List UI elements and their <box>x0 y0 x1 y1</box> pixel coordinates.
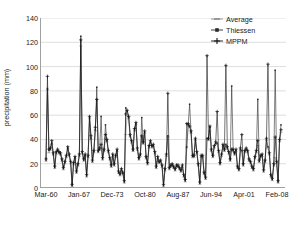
y-tick-label: 60 <box>30 111 38 120</box>
legend-label: Average <box>226 15 253 24</box>
legend-marker-icon <box>210 36 224 46</box>
x-tick-label: Jan-67 <box>68 190 90 199</box>
legend-item-mppm[interactable]: MPPM <box>210 36 288 46</box>
y-tick-label: 140 <box>26 14 38 23</box>
y-tick-label: 120 <box>26 38 38 47</box>
y-tick-label: 80 <box>30 86 38 95</box>
x-tick-label: Apr-01 <box>233 190 255 199</box>
x-tick-label: Oct-80 <box>134 190 156 199</box>
legend-label: MPPM <box>226 37 248 46</box>
x-tick-label: Feb-08 <box>266 190 289 199</box>
chart-legend: AverageThiessenMPPM <box>208 13 290 48</box>
x-axis-ticks: Mar-60Jan-67Dec-73Oct-80Aug-87Jun-94Apr-… <box>0 190 308 210</box>
y-tick-label: 100 <box>26 62 38 71</box>
legend-item-thiessen[interactable]: Thiessen <box>210 25 288 35</box>
legend-label: Thiessen <box>226 26 255 35</box>
chart-figure: precipitation (mm) 020406080100120140 Ma… <box>0 0 308 227</box>
legend-item-average[interactable]: Average <box>210 14 288 24</box>
x-tick-label: Dec-73 <box>100 190 123 199</box>
x-tick-label: Jun-94 <box>200 190 222 199</box>
legend-marker-icon <box>210 25 224 35</box>
x-tick-label: Aug-87 <box>166 190 189 199</box>
y-tick-label: 40 <box>30 135 38 144</box>
legend-marker-icon <box>210 14 224 24</box>
x-tick-label: Mar-60 <box>35 190 58 199</box>
y-tick-label: 20 <box>30 159 38 168</box>
y-axis-label-text: precipitation (mm) <box>3 69 12 127</box>
